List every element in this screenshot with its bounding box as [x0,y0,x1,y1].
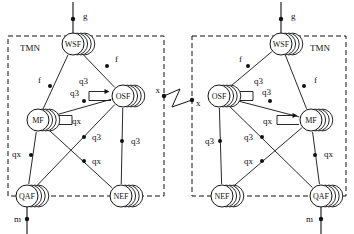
tmn-reference-diagram: WSFOSFMFQAFNEFWSFOSFMFQAFNEF TMNTMNffq3q… [0,0,354,234]
self-loop-arrowhead-osf-loop-left [105,89,110,94]
self-loop-label-osf-loop-left: q3 [79,76,89,86]
edge-label-mf-nef-left: qx [92,156,102,166]
reference-point-mf-nef-left [82,159,86,163]
reference-point-wsf-mf-left [48,84,52,88]
external-label-g-right: g [291,11,296,21]
node-label-osf-left: OSF [116,92,131,101]
external-label-g-left: g [83,11,88,21]
x-interface-point-right [190,98,194,102]
reference-point-osf-nef-right [218,139,222,143]
node-label-mf-right: MF [305,116,317,125]
reference-point-mf-qaf-left [29,153,33,157]
reference-point-mf-osf-left [82,99,86,103]
node-label-nef-right: NEF [214,192,230,201]
reference-point-m-right [319,217,323,221]
tmn-label-right: TMN [310,43,331,53]
edge-mf-nef-right [231,128,302,188]
edge-label-wsf-mf-left: f [38,75,41,85]
reference-point-osf-qaf-left [82,135,86,139]
x-interface-layer [162,89,194,107]
reference-point-g-left [71,17,75,21]
edge-osf-nef-left [121,108,123,184]
node-osf-right[interactable]: OSF [208,85,241,107]
reference-point-mf-osf-right [268,99,272,103]
edge-mf-osf-right [231,99,300,117]
self-loop-label-mf-loop-left: qx [72,116,82,126]
edge-wsf-osf-right [228,52,272,89]
edge-label-mf-osf-left: q3 [70,88,80,98]
node-wsf-left[interactable]: WSF [62,33,95,55]
node-layer: WSFOSFMFQAFNEFWSFOSFMFQAFNEF [16,33,343,207]
external-label-m-left: m [14,214,21,224]
node-wsf-right[interactable]: WSF [270,33,303,55]
edge-wsf-mf-right [285,55,306,109]
node-label-wsf-left: WSF [65,40,82,49]
self-loop-mf-loop-right [277,113,299,125]
edge-mf-qaf-left [29,132,37,184]
node-label-qaf-left: QAF [19,192,36,201]
reference-point-osf-qaf-right [260,135,264,139]
reference-point-wsf-osf-right [246,64,250,68]
reference-point-osf-nef-left [120,139,124,143]
edge-osf-nef-right [219,108,221,184]
external-label-m-right: m [306,214,313,224]
edge-label-wsf-mf-right: f [314,75,317,85]
node-mf-left[interactable]: MF [27,109,60,131]
x-interface-zigzag [164,89,192,107]
reference-point-m-left [25,217,29,221]
tmn-label-left: TMN [20,43,41,53]
self-loop-label-mf-loop-right: qx [263,116,273,126]
edge-label-osf-qaf-right: q3 [244,132,254,142]
diagram-root: WSFOSFMFQAFNEFWSFOSFMFQAFNEF TMNTMNffq3q… [0,0,354,234]
edge-mf-qaf-right [313,132,320,184]
node-nef-left[interactable]: NEF [110,185,143,207]
node-qaf-left[interactable]: QAF [16,185,49,207]
x-interface-label-right: x [196,98,201,108]
self-loop-path-mf-loop-right [277,116,299,125]
self-loop-path-osf-loop-left [89,92,111,101]
node-label-mf-left: MF [32,116,44,125]
node-label-wsf-right: WSF [273,40,290,49]
reference-point-wsf-osf-left [105,64,109,68]
edge-label-mf-qaf-left: qx [12,149,22,159]
edge-wsf-mf-left [43,55,68,109]
reference-point-mf-qaf-right [313,153,317,157]
edge-label-osf-nef-right: q3 [205,136,215,146]
self-loop-osf-loop-left [89,89,111,101]
edge-label-mf-nef-right: qx [244,156,254,166]
reference-point-g-right [279,17,283,21]
x-interface-point-left [162,94,166,98]
edge-label-mf-osf-right: q3 [262,87,272,97]
x-interface-label-left: x [156,85,161,95]
node-nef-right[interactable]: NEF [211,185,244,207]
edge-label-osf-qaf-left: q3 [92,132,102,142]
reference-point-mf-nef-right [260,159,264,163]
node-label-osf-right: OSF [212,92,227,101]
edge-mf-nef-left [47,128,112,188]
edge-mf-osf-left [50,99,112,116]
node-label-qaf-right: QAF [313,192,330,201]
node-mf-right[interactable]: MF [300,109,333,131]
node-osf-left[interactable]: OSF [112,85,145,107]
reference-point-wsf-mf-right [302,84,306,88]
node-qaf-right[interactable]: QAF [310,185,343,207]
self-loop-arrowhead-mf-loop-right [293,113,298,118]
edge-label-osf-nef-left: q3 [131,136,141,146]
node-label-nef-left: NEF [113,192,129,201]
self-loop-label-osf-loop-right: q3 [254,76,264,86]
edge-label-wsf-osf-left: f [115,54,118,64]
edge-label-wsf-osf-right: f [239,54,242,64]
edge-label-mf-qaf-right: qx [324,149,334,159]
